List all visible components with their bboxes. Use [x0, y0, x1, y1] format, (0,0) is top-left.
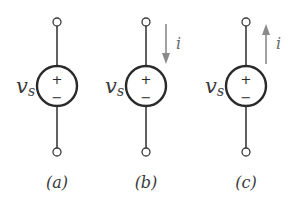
bottom-terminal: [53, 148, 61, 156]
source-label: v: [105, 74, 117, 98]
panel-c: + − v s i (c): [205, 18, 281, 192]
source-subscript: s: [217, 83, 224, 99]
panel-a: + − v s (a): [16, 18, 77, 192]
source-label: v: [16, 74, 28, 98]
plus-sign: +: [241, 72, 252, 87]
bottom-terminal: [242, 148, 250, 156]
caption-a: (a): [46, 173, 68, 192]
source-subscript: s: [28, 83, 35, 99]
top-terminal: [242, 18, 250, 26]
bottom-terminal: [142, 148, 150, 156]
panel-b: + − v s i (b): [105, 18, 181, 192]
minus-sign: −: [241, 90, 252, 105]
top-terminal: [142, 18, 150, 26]
circuit-diagram: + − v s (a) + − v s i (b) + − v s: [0, 0, 299, 206]
caption-b: (b): [135, 173, 158, 192]
plus-sign: +: [52, 72, 63, 87]
current-arrow-up-icon: [262, 24, 270, 64]
caption-c: (c): [235, 173, 256, 192]
top-terminal: [53, 18, 61, 26]
minus-sign: −: [52, 90, 63, 105]
source-subscript: s: [117, 83, 124, 99]
current-arrow-down-icon: [162, 24, 170, 64]
source-label: v: [205, 74, 217, 98]
minus-sign: −: [141, 90, 152, 105]
plus-sign: +: [141, 72, 152, 87]
current-label: i: [276, 34, 281, 53]
current-label: i: [176, 34, 181, 53]
